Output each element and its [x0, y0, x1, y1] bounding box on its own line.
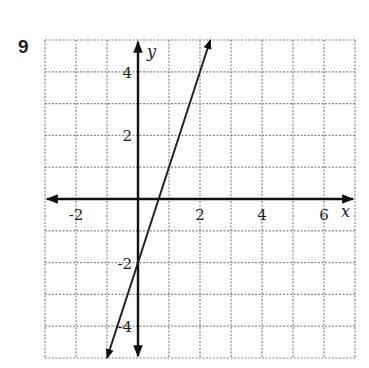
- y-tick-label: 4: [122, 64, 132, 82]
- x-tick-label: 6: [319, 206, 329, 224]
- x-axis-label: x: [341, 202, 350, 221]
- coordinate-plane: -224642-2-4xy: [0, 0, 369, 368]
- y-tick-label: -2: [117, 255, 132, 273]
- x-tick-label: -2: [69, 206, 84, 224]
- x-tick-label: 4: [257, 206, 267, 224]
- y-axis-label: y: [146, 42, 157, 61]
- y-tick-label: 2: [122, 127, 132, 145]
- y-tick-label: -4: [117, 318, 132, 336]
- tick-labels: -224642-2-4xy: [69, 42, 350, 336]
- x-tick-label: 2: [195, 206, 205, 224]
